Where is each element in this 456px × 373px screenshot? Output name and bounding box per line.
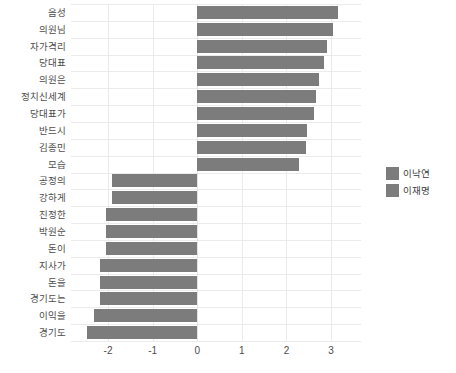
bar	[100, 292, 197, 305]
x-tick-label: 1	[239, 345, 245, 357]
legend-item[interactable]: 이낙연	[386, 166, 430, 181]
gridline-horizontal	[71, 189, 361, 190]
y-tick-label: 돈을	[0, 277, 66, 288]
gridline-horizontal	[71, 290, 361, 291]
bar	[112, 174, 198, 187]
gridline-horizontal	[71, 105, 361, 106]
x-tick-label: 2	[284, 345, 290, 357]
bar	[197, 40, 326, 53]
gridline-zero	[197, 4, 198, 341]
y-tick-label: 당대표	[0, 57, 66, 68]
gridline-vertical	[331, 4, 332, 341]
bar	[197, 124, 307, 137]
y-tick-label: 경기도	[0, 327, 66, 338]
bar	[197, 107, 314, 120]
gridline-horizontal	[71, 88, 361, 89]
gridline-vertical	[108, 4, 109, 341]
y-tick-label: 반드시	[0, 125, 66, 136]
gridline-horizontal	[71, 122, 361, 123]
bar	[94, 309, 198, 322]
bar	[87, 326, 197, 339]
bar	[100, 276, 197, 289]
bar-chart: 음성의원님자가격리당대표의원은정치신세계당대표가반드시김종민모습공정의강하게진정…	[0, 0, 456, 373]
y-tick-label: 당대표가	[0, 108, 66, 119]
y-tick-label: 이익을	[0, 310, 66, 321]
gridline-vertical	[242, 4, 243, 341]
x-axis-labels: -2-10123	[0, 345, 456, 361]
bar	[106, 242, 197, 255]
gridline-horizontal	[71, 307, 361, 308]
y-tick-label: 모습	[0, 159, 66, 170]
legend-item[interactable]: 이재명	[386, 183, 430, 198]
y-tick-label: 지사가	[0, 260, 66, 271]
y-axis-labels: 음성의원님자가격리당대표의원은정치신세계당대표가반드시김종민모습공정의강하게진정…	[0, 4, 66, 341]
gridline-horizontal	[71, 324, 361, 325]
legend: 이낙연이재명	[386, 166, 430, 198]
legend-label: 이재명	[403, 185, 430, 196]
bar	[197, 73, 318, 86]
y-tick-label: 의원은	[0, 74, 66, 85]
gridline-horizontal	[71, 4, 361, 5]
y-tick-label: 의원님	[0, 24, 66, 35]
y-tick-label: 박원순	[0, 226, 66, 237]
legend-label: 이낙연	[403, 168, 430, 179]
bar	[197, 90, 316, 103]
gridline-vertical	[286, 4, 287, 341]
y-tick-label: 강하게	[0, 192, 66, 203]
y-tick-label: 공정의	[0, 175, 66, 186]
bar	[197, 6, 338, 19]
legend-swatch-icon	[386, 184, 399, 197]
y-tick-label: 김종민	[0, 142, 66, 153]
x-tick-label: -2	[104, 345, 113, 357]
y-tick-label: 음성	[0, 7, 66, 18]
gridline-horizontal	[71, 223, 361, 224]
y-tick-label: 돈이	[0, 243, 66, 254]
y-tick-label: 진정한	[0, 209, 66, 220]
bar	[112, 191, 198, 204]
y-tick-label: 자가격리	[0, 41, 66, 52]
bar	[106, 225, 197, 238]
gridline-horizontal	[71, 206, 361, 207]
bar	[106, 208, 197, 221]
gridline-horizontal	[71, 341, 361, 342]
plot-area	[71, 4, 361, 341]
x-tick-label: 0	[194, 345, 200, 357]
x-tick-label: 3	[328, 345, 334, 357]
y-tick-label: 경기도는	[0, 293, 66, 304]
gridline-horizontal	[71, 71, 361, 72]
x-tick-label: -1	[148, 345, 157, 357]
legend-swatch-icon	[386, 167, 399, 180]
gridline-vertical	[153, 4, 154, 341]
bar	[197, 56, 324, 69]
y-tick-label: 정치신세계	[0, 91, 66, 102]
bar	[100, 259, 197, 272]
bar	[197, 158, 299, 171]
bar	[197, 23, 333, 36]
bar	[197, 141, 305, 154]
